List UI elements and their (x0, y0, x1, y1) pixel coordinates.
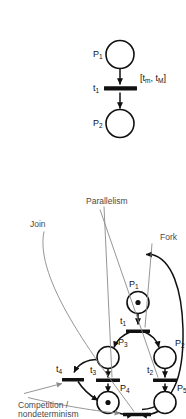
label-transition-t1: t1 (120, 315, 127, 326)
annotation-parallelism: Parallelism (86, 195, 128, 205)
transition-t2-bar (153, 378, 177, 382)
top-petri-net: P1 P2 P3 P4 P5 t1 t2 t3 (18, 195, 186, 418)
transition-join-bar (123, 412, 151, 416)
label-transition-t2: t2 (147, 364, 154, 375)
label-bottom-transition-t1: t1 (93, 82, 100, 93)
label-bottom-place-p1: P1 (93, 48, 103, 59)
annotation-texts: Competition / nondeterminism Fork Join P… (18, 195, 178, 418)
transition-t3-bar (96, 378, 120, 382)
label-place-p1: P1 (129, 278, 139, 289)
top-net-labels: P1 P2 P3 P4 P5 t1 t2 t3 (56, 278, 186, 393)
leader-competition-a (24, 383, 62, 393)
place-p5 (154, 391, 176, 413)
place-bottom-p2 (106, 109, 134, 137)
label-place-p3: P3 (118, 336, 128, 347)
bottom-petri-net: P1 P2 t1 [tm, tM] (93, 40, 166, 137)
label-firing-interval: [tm, tM] (140, 72, 166, 83)
transition-t1-bar (126, 329, 150, 333)
place-p2 (154, 346, 176, 368)
transition-bottom-t1-bar (104, 86, 137, 90)
place-p1 (127, 291, 149, 313)
label-transition-t3: t3 (90, 364, 97, 375)
label-place-p5: P5 (177, 382, 186, 393)
figure-canvas: P1 P2 P3 P4 P5 t1 t2 t3 (0, 0, 186, 419)
annotation-competition: Competition / nondeterminism (18, 399, 78, 418)
transition-t4-bar (62, 377, 84, 381)
annotation-fork: Fork (160, 231, 178, 241)
label-bottom-place-p2: P2 (93, 117, 103, 128)
label-place-p4: P4 (120, 382, 130, 393)
arc-t4-p4 (78, 381, 98, 400)
place-p4 (97, 391, 119, 413)
place-bottom-p1 (106, 40, 134, 68)
label-transition-t4: t4 (56, 363, 63, 374)
leader-fork (145, 243, 152, 327)
annotation-join: Join (30, 218, 46, 228)
